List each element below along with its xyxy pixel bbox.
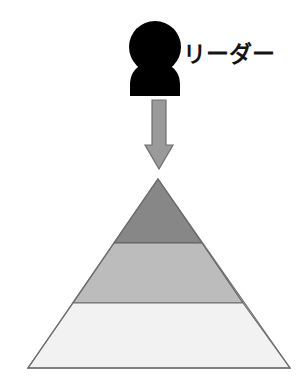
diagram-canvas: リーダー [0,0,304,384]
pyramid-top-layer [114,179,202,243]
pyramid-middle-layer [73,243,243,303]
arrow-down-icon [145,100,173,169]
person-silhouette-icon [129,21,181,96]
leader-label: リーダー [183,37,275,71]
pyramid-shape [28,179,290,368]
